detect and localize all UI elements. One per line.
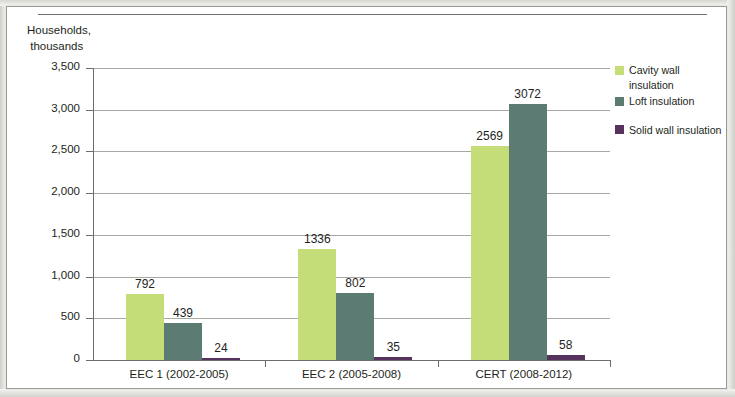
y-axis-tick [86,235,93,236]
bar [298,249,336,360]
legend-color-swatch [615,97,624,106]
y-axis-tick-label: 0 [18,352,80,364]
bar [202,358,240,360]
x-axis-tick [438,360,439,367]
x-axis-tick [265,360,266,367]
x-axis-category-label: CERT (2008-2012) [434,368,614,380]
y-axis-tick-label: 500 [18,310,80,322]
page-edge-right [727,0,735,397]
legend-item-label: Solid wall insulation [629,124,721,136]
y-axis-tick-label: 3,000 [18,102,80,114]
gridline [93,68,610,69]
bar-value-label: 2569 [460,129,520,143]
y-axis-tick [86,68,93,69]
bar-value-label: 439 [153,306,213,320]
bar-value-label: 3072 [498,87,558,101]
y-axis-tick-label: 1,500 [18,227,80,239]
legend-item-label: Cavity wall insulation [629,64,680,91]
y-axis-title: Households, thousands [27,23,91,54]
bar-value-label: 792 [115,277,175,291]
y-axis-tick [86,318,93,319]
y-axis-tick-label: 3,500 [18,60,80,72]
bar-value-label: 35 [363,340,423,354]
y-axis-tick [86,193,93,194]
y-axis-line [93,68,94,360]
y-axis-tick-label: 2,000 [18,185,80,197]
y-axis-tick [86,360,93,361]
bar [374,357,412,360]
x-axis-category-label: EEC 2 (2005-2008) [262,368,442,380]
bar-value-label: 24 [191,341,251,355]
legend-item[interactable]: Solid wall insulation [615,123,727,138]
y-axis-tick-label: 2,500 [18,143,80,155]
y-axis-tick-label: 1,000 [18,269,80,281]
bar [547,355,585,360]
legend-color-swatch [615,125,624,134]
x-axis-line [93,360,610,361]
bar [471,146,509,360]
bar-value-label: 802 [325,276,385,290]
legend-item[interactable]: Cavity wall insulation [615,63,727,92]
header-rule [38,14,707,15]
x-axis-tick [610,360,611,367]
y-axis-tick [86,151,93,152]
legend-color-swatch [615,66,624,75]
bar [126,294,164,360]
chart-page: Households, thousands 05001,0001,5002,00… [0,0,735,397]
x-axis-category-label: EEC 1 (2002-2005) [89,368,269,380]
legend-item-label: Loft insulation [629,95,694,107]
bar-value-label: 1336 [287,232,347,246]
page-edge-bottom [0,389,735,397]
y-axis-tick [86,277,93,278]
legend-item[interactable]: Loft insulation [615,94,727,109]
y-axis-tick [86,110,93,111]
bar-value-label: 58 [536,338,596,352]
chart-legend: Cavity wall insulationLoft insulationSol… [615,63,727,139]
